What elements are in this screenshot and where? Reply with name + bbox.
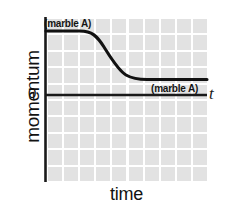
- curve-annotation-initial: (marble A): [44, 19, 91, 29]
- momentum-vs-time-graph: momentum 0 (marble A) (marble A) t time: [0, 0, 227, 208]
- curve-annotation-final: (marble A): [151, 84, 198, 94]
- x-axis-variable-symbol: t: [209, 85, 214, 102]
- graph-vector-layer: [0, 0, 227, 208]
- x-axis-title: time: [46, 185, 207, 203]
- momentum-curve-marble-a: [46, 31, 207, 80]
